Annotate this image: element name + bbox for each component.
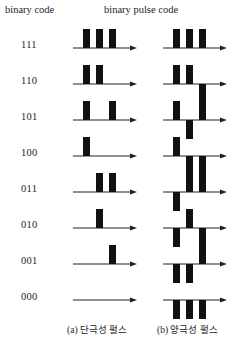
code-label-100: 100 [21, 147, 38, 158]
code-label-010: 010 [21, 219, 38, 230]
code-row-000: 000 [0, 280, 244, 316]
caption-bipolar: (b) 양극성 펄스 [157, 322, 218, 336]
code-label-110: 110 [21, 75, 37, 86]
bipolar-waveform-000 [163, 280, 231, 316]
pulse-down-bipolar-bit1 [173, 300, 180, 319]
code-label-000: 000 [21, 291, 38, 302]
code-label-111: 111 [21, 39, 37, 50]
unipolar-waveform-000 [73, 280, 141, 316]
waveform-arrowhead [130, 297, 137, 302]
caption-unipolar: (a) 단극성 펄스 [67, 322, 127, 336]
code-label-101: 101 [21, 111, 38, 122]
code-label-001: 001 [21, 255, 38, 266]
header-binary-code: binary code [5, 4, 54, 15]
pulse-down-bipolar-bit2 [186, 300, 193, 319]
waveform-arrowhead [220, 297, 227, 302]
binary-pulse-code-figure: binary code binary pulse code 1111101011… [0, 0, 244, 343]
pulse-down-bipolar-bit3 [199, 300, 206, 319]
code-label-011: 011 [21, 183, 37, 194]
